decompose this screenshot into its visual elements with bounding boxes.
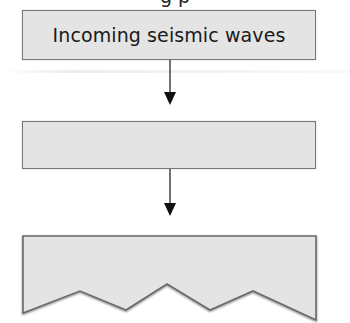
arrow-down-2 bbox=[0, 169, 350, 219]
cut-off-heading: g p bbox=[0, 0, 350, 6]
arrow-down-icon bbox=[0, 169, 350, 219]
zigzag-bottom-box bbox=[0, 230, 350, 323]
arrow-down-1 bbox=[0, 60, 350, 108]
empty-middle-box bbox=[22, 121, 316, 169]
ground-zigzag-shape bbox=[0, 230, 350, 323]
arrow-down-icon bbox=[0, 60, 350, 108]
box-label: Incoming seismic waves bbox=[53, 24, 286, 46]
incoming-seismic-waves-box: Incoming seismic waves bbox=[22, 10, 316, 60]
